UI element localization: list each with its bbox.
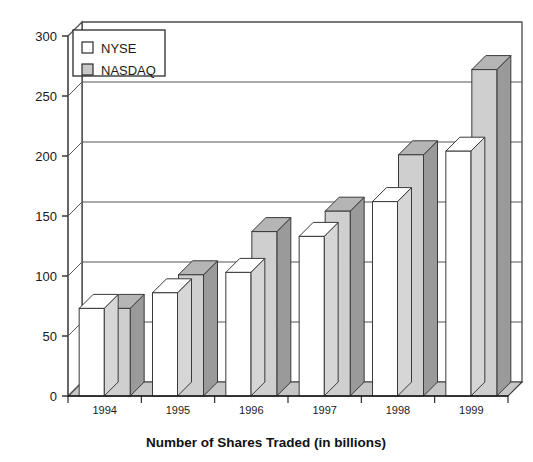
y-axis-tick-label: 100 [35, 269, 57, 284]
y-axis-tick-label: 300 [35, 29, 57, 44]
plot-area: 0501001502002503001994199519961997199819… [35, 22, 522, 416]
bar-nyse-1998 [373, 188, 412, 396]
bar-side-face [251, 258, 265, 396]
bar-side-face [178, 279, 192, 396]
bar-side-face [130, 294, 144, 396]
bar-front-face [226, 272, 251, 396]
y-axis-tick-label: 50 [43, 329, 57, 344]
y-axis-tick-label: 0 [50, 389, 57, 404]
x-axis-tick-label: 1994 [92, 404, 116, 416]
bar-side-face [277, 218, 291, 396]
legend-entry-nasdaq[interactable]: NASDAQ [82, 63, 156, 78]
bar-nyse-1997 [299, 222, 338, 396]
chart-container: 0501001502002503001994199519961997199819… [0, 0, 533, 462]
x-axis-tick-label: 1999 [459, 404, 483, 416]
bar-front-face [446, 151, 471, 396]
bar-front-face [299, 236, 324, 396]
bar-side-face [424, 141, 438, 396]
chart-title: Number of Shares Traded (in billions) [146, 435, 386, 450]
legend-swatch [82, 64, 93, 75]
bar-nyse-1995 [153, 279, 192, 396]
x-axis-tick-label: 1996 [239, 404, 263, 416]
bar-nyse-1999 [446, 137, 485, 396]
legend-swatch [82, 42, 93, 53]
bar-side-face [350, 197, 364, 396]
legend-label: NASDAQ [101, 63, 156, 78]
bar-front-face [153, 293, 178, 396]
bar-front-face [79, 308, 104, 396]
chart-legend: NYSENASDAQ [73, 30, 165, 78]
legend-entry-nyse[interactable]: NYSE [82, 41, 137, 56]
bar-chart: 0501001502002503001994199519961997199819… [0, 0, 533, 462]
bar-nyse-1996 [226, 258, 265, 396]
y-axis-tick-label: 200 [35, 149, 57, 164]
y-axis-tick-label: 250 [35, 89, 57, 104]
x-axis-tick-label: 1995 [166, 404, 190, 416]
bar-side-face [324, 222, 338, 396]
bar-front-face [373, 202, 398, 396]
bar-side-face [204, 261, 218, 396]
legend-label: NYSE [101, 41, 137, 56]
bar-side-face [398, 188, 412, 396]
y-axis-tick-label: 150 [35, 209, 57, 224]
x-axis-tick-label: 1998 [386, 404, 410, 416]
bar-side-face [497, 56, 511, 396]
bar-side-face [471, 137, 485, 396]
bar-side-face [104, 294, 118, 396]
x-axis-tick-label: 1997 [312, 404, 336, 416]
bar-nyse-1994 [79, 294, 118, 396]
